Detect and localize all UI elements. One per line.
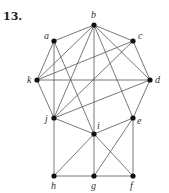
vertex-label-h: h xyxy=(51,180,56,191)
vertex-e xyxy=(130,115,135,120)
vertex-i xyxy=(91,131,96,136)
vertex-label-i: i xyxy=(97,120,100,131)
vertex-label-j: j xyxy=(43,113,48,124)
vertex-k xyxy=(34,77,39,82)
vertex-j xyxy=(51,115,56,120)
vertex-label-d: d xyxy=(155,74,161,85)
vertex-label-f: f xyxy=(130,180,134,191)
vertex-f xyxy=(130,173,135,178)
graph-edges xyxy=(37,25,150,176)
vertex-label-a: a xyxy=(44,30,49,41)
edge-c-d xyxy=(133,41,150,80)
vertex-label-b: b xyxy=(91,9,96,20)
vertex-label-k: k xyxy=(27,74,32,85)
vertex-label-g: g xyxy=(91,180,96,191)
vertex-g xyxy=(91,173,96,178)
edge-i-f xyxy=(94,134,133,176)
vertex-label-e: e xyxy=(137,115,142,126)
edge-i-h xyxy=(54,134,94,176)
vertex-a xyxy=(51,38,56,43)
vertex-label-c: c xyxy=(138,30,143,41)
vertex-h xyxy=(51,173,56,178)
vertex-d xyxy=(147,77,152,82)
vertex-b xyxy=(91,22,96,27)
vertex-c xyxy=(130,38,135,43)
edge-e-g xyxy=(94,118,133,176)
graph-diagram: abckdjeihgf xyxy=(0,0,169,193)
